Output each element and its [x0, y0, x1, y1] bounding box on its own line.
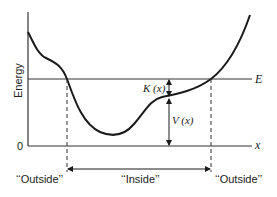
potential-label: V (x) — [172, 114, 194, 127]
origin-label: 0 — [17, 140, 23, 152]
energy-diagram: Energy 0 x E K (x) V (x) ‘‘Outside’’ ‘‘I… — [0, 0, 277, 197]
region-label-outside-left: ‘‘Outside’’ — [16, 173, 63, 185]
kinetic-label: K (x) — [142, 82, 166, 95]
potential-curve — [28, 15, 250, 135]
region-label-inside: ‘‘Inside’’ — [121, 173, 160, 185]
y-axis-label: Energy — [12, 63, 24, 98]
region-label-outside-right: ‘‘Outside’’ — [215, 173, 262, 185]
energy-line-label: E — [254, 72, 263, 86]
x-axis-label: x — [254, 138, 261, 152]
